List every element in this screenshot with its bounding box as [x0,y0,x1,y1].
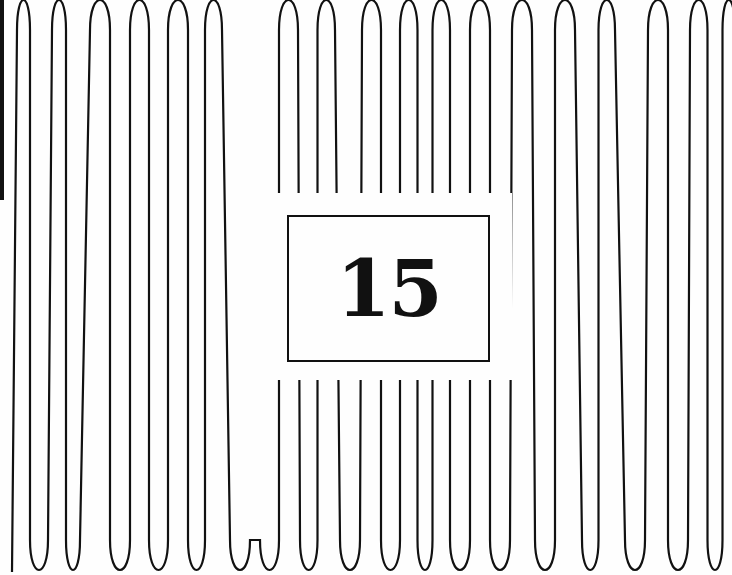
number-label-box: 15 [287,215,490,362]
artwork: 15 [0,0,732,575]
left-edge-shadow [0,0,4,200]
number-label: 15 [336,243,441,334]
